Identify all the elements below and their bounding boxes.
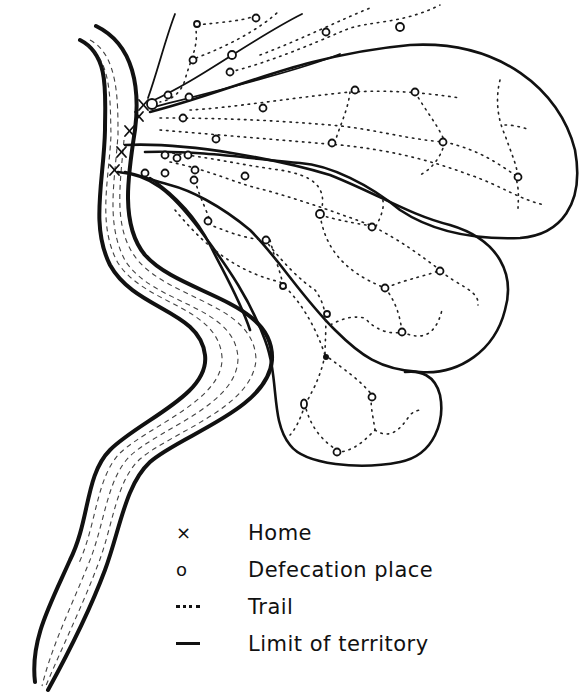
- legend-label: Limit of territory: [248, 632, 429, 656]
- limit-symbol-icon: [168, 642, 248, 645]
- defecation-marker: [369, 394, 376, 401]
- defecation-marker: [227, 69, 234, 76]
- defecation-marker: [180, 115, 187, 122]
- legend-label: Trail: [248, 595, 293, 619]
- defecation-marker: [324, 311, 330, 317]
- defecation-marker: [186, 94, 193, 101]
- legend: × Home o Defecation place Trail Limit of…: [168, 514, 488, 662]
- trail-symbol-icon: [168, 605, 248, 608]
- defecation-marker: [191, 177, 198, 184]
- legend-label: Defecation place: [248, 558, 433, 582]
- trail: [270, 240, 283, 285]
- defecation-marker: [190, 57, 197, 64]
- defecation-marker-filled: [323, 354, 329, 360]
- defecation-marker: [280, 283, 286, 289]
- legend-item-trail: Trail: [168, 588, 488, 625]
- defecation-marker: [323, 29, 330, 36]
- defecation-marker: [142, 170, 149, 177]
- defecation-marker: [192, 167, 199, 174]
- defecation-marker: [352, 87, 359, 94]
- trail: [498, 80, 518, 175]
- defecation-marker: [515, 174, 522, 181]
- trail: [290, 405, 305, 435]
- defecation-marker: [260, 105, 267, 112]
- defecation-marker: [242, 173, 249, 180]
- trail: [402, 310, 442, 336]
- trail: [190, 91, 460, 110]
- legend-item-home: × Home: [168, 514, 488, 551]
- defecation-marker: [253, 15, 260, 22]
- defecation-marker: [165, 92, 172, 99]
- defecation-marker: [301, 400, 307, 409]
- defecation-marker: [194, 21, 200, 27]
- limit-ray-1: [148, 14, 175, 98]
- trail: [170, 162, 440, 270]
- trails: [160, 5, 545, 452]
- defecation-marker: [228, 51, 236, 59]
- trail: [160, 118, 518, 210]
- defecation-marker: [399, 329, 406, 336]
- defecation-marker: [334, 449, 341, 456]
- legend-item-limit-of-territory: Limit of territory: [168, 625, 488, 662]
- defecation-marker: [382, 285, 389, 292]
- legend-item-defecation-place: o Defecation place: [168, 551, 488, 588]
- legend-label: Home: [248, 521, 312, 545]
- defecation-marker: [162, 152, 169, 159]
- trail: [330, 288, 402, 333]
- defecation-marker: [396, 23, 404, 31]
- defecation-marker: [437, 268, 444, 275]
- trail: [320, 215, 478, 305]
- defecation-marker: [316, 210, 324, 218]
- home-symbol-icon: ×: [168, 522, 248, 543]
- home-marker: [125, 126, 134, 136]
- defecation-marker: [174, 155, 181, 162]
- defecation-marker: [162, 170, 169, 177]
- trail: [335, 92, 350, 142]
- territory-upper-lobe: [145, 45, 577, 239]
- trail: [415, 92, 445, 175]
- defecation-marker: [412, 89, 419, 96]
- defecation-marker: [263, 237, 270, 244]
- trail: [375, 410, 422, 434]
- trail: [160, 152, 323, 215]
- trail: [230, 5, 440, 72]
- territory-diagram: × Home o Defecation place Trail Limit of…: [0, 0, 581, 695]
- defecation-marker: [369, 224, 376, 231]
- trail: [197, 15, 255, 25]
- trail: [505, 125, 530, 130]
- defecation-marker: [329, 140, 336, 147]
- territory-middle-lobe: [125, 145, 508, 373]
- territory-limits: [118, 14, 577, 466]
- defecation-marker: [440, 139, 447, 146]
- defecation-marker: [213, 136, 220, 143]
- trail: [260, 8, 370, 55]
- defecation-marker: [205, 218, 212, 225]
- defecation-marker: [185, 152, 192, 159]
- home-marker: [110, 165, 119, 175]
- home-marker: [117, 147, 126, 157]
- trail: [305, 355, 375, 452]
- defecation-symbol-icon: o: [168, 559, 248, 580]
